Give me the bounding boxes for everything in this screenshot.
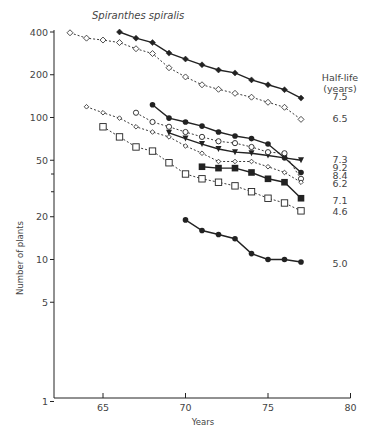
square-marker [133,144,139,150]
diamond-marker [133,46,139,52]
axes: 1510205010020040065707580 [30,27,357,414]
circle-marker [298,259,304,265]
diamond-marker [249,77,255,83]
circle-marker [216,232,222,238]
half-life-label: 6.5 [332,113,347,124]
square-marker [182,171,188,177]
circle-marker [133,110,138,115]
square-marker [149,148,155,154]
half-life-legend: Half-life (years) 7.56.57.39.28.46.27.14… [322,72,358,269]
half-life-label: 4.6 [332,206,347,217]
square-marker [298,208,304,214]
y-tick-label: 10 [36,254,48,265]
diamond-marker [117,29,123,35]
y-tick-label: 20 [36,211,48,222]
circle-marker [232,141,237,146]
diamond-marker [265,99,271,105]
diamond-marker [150,130,155,135]
x-tick-label: 80 [344,402,356,413]
square-marker [100,124,106,130]
circle-marker [265,150,270,155]
diamond-marker [232,90,238,96]
square-marker [281,179,288,186]
y-tick-label: 5 [42,297,48,308]
diamond-marker [298,116,304,122]
chart-title: Spiranthes spiralis [92,10,184,21]
circle-marker [298,170,304,176]
circle-marker [249,251,255,257]
square-marker [215,165,222,172]
y-tick-label: 50 [36,155,48,166]
circle-marker [282,257,288,263]
circle-marker [150,119,155,124]
diamond-marker [100,37,106,43]
square-marker [166,160,172,166]
y-tick-label: 1 [42,396,48,407]
series-5-0 [183,217,304,265]
diamond-marker [199,82,205,88]
half-life-label: 7.1 [332,195,347,206]
circle-marker [183,119,189,125]
square-marker [248,189,254,195]
diamond-marker [133,35,139,41]
half-life-line-chart: Spiranthes spiralis 15102050100200400657… [0,0,367,436]
diamond-marker [282,104,288,110]
diamond-marker [134,124,139,129]
diamond-marker [117,40,123,46]
diamond-marker [298,95,304,101]
y-tick-label: 200 [30,69,48,80]
diamond-marker [216,86,222,92]
diamond-marker [249,94,255,100]
square-marker [281,200,287,206]
x-tick-label: 65 [97,402,109,413]
circle-marker [282,151,287,156]
square-marker [116,134,122,140]
circle-marker [199,123,205,129]
diamond-marker [84,35,90,41]
circle-marker [199,228,205,234]
half-life-label: 7.5 [332,91,347,102]
y-tick-label: 100 [30,112,48,123]
diamond-marker [101,110,106,115]
diamond-marker [232,70,238,76]
series-line [153,105,302,173]
circle-marker [216,139,221,144]
x-axis-label: Years [191,417,215,427]
square-marker [298,195,305,202]
square-marker [215,179,221,185]
diamond-marker [167,135,172,140]
diamond-marker [216,159,221,164]
diamond-marker [199,62,205,68]
diamond-marker [183,56,189,62]
diamond-marker [200,151,205,156]
half-life-label: 5.0 [332,258,347,269]
square-marker [232,183,238,189]
diamond-marker [282,170,287,175]
circle-marker [199,134,204,139]
diamond-marker [183,74,189,80]
series-7-1 [199,163,305,201]
circle-marker [183,129,188,134]
series-6-5 [67,30,304,123]
series-group [67,29,304,265]
square-marker [248,169,255,176]
circle-marker [249,136,255,142]
diamond-marker [266,164,271,169]
circle-marker [183,217,189,223]
half-life-label: 6.2 [332,178,347,189]
circle-marker [265,257,271,263]
legend-title-line1: Half-life [322,72,358,83]
diamond-marker [117,116,122,121]
diamond-marker [249,159,254,164]
series-7-5 [117,29,305,101]
circle-marker [150,102,156,108]
diamond-marker [282,87,288,93]
x-tick-label: 75 [262,402,274,413]
circle-marker [216,129,222,135]
diamond-marker [233,159,238,164]
square-marker [265,195,271,201]
diamond-marker [84,104,89,109]
circle-marker [232,133,238,139]
circle-marker [166,124,171,129]
square-marker [232,165,239,172]
